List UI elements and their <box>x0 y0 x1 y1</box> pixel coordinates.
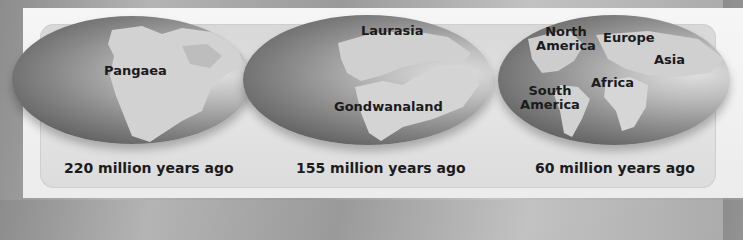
label-pangaea: Pangaea <box>104 64 167 78</box>
continent-pangaea-shape <box>12 16 252 144</box>
globe-pangaea <box>12 16 252 144</box>
caption-220mya: 220 million years ago <box>64 160 234 176</box>
label-asia: Asia <box>654 53 685 67</box>
label-north-america: North America <box>536 25 596 53</box>
label-laurasia: Laurasia <box>361 24 423 38</box>
label-europe: Europe <box>603 31 655 45</box>
label-south-america: South America <box>520 84 580 112</box>
label-africa: Africa <box>591 76 634 90</box>
caption-155mya: 155 million years ago <box>296 160 466 176</box>
label-gondwanaland: Gondwanaland <box>334 100 443 114</box>
caption-60mya: 60 million years ago <box>535 160 695 176</box>
label-south-america-line2: America <box>520 98 580 112</box>
label-south-america-line1: South <box>520 84 580 98</box>
label-north-america-line1: North <box>536 25 596 39</box>
label-north-america-line2: America <box>536 39 596 53</box>
